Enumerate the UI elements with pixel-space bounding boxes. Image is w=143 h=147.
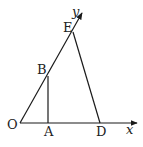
segment-ed: [73, 32, 100, 123]
geometry-diagram: O A B D E x y: [0, 0, 143, 147]
label-b: B: [37, 62, 47, 77]
label-y-axis: y: [71, 4, 80, 19]
y-axis: [20, 13, 82, 123]
label-x-axis: x: [126, 122, 134, 137]
label-a: A: [43, 124, 54, 139]
label-o: O: [7, 117, 18, 132]
label-d: D: [96, 124, 106, 139]
label-e: E: [63, 20, 73, 35]
